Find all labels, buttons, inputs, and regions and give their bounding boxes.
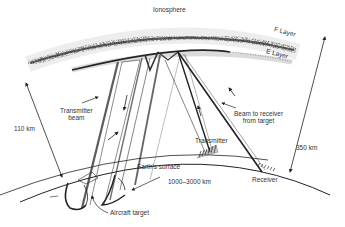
label-350km: 350 km: [296, 144, 317, 151]
label-receiver: Receiver: [252, 176, 278, 183]
label-aircraft-target: Aircraft target: [110, 209, 149, 216]
label-transmitter-beam: Transmitter beam: [60, 107, 93, 122]
beam-direction-arrows: [108, 88, 235, 140]
label-transmitter-beam-line1: Transmitter: [60, 107, 93, 114]
label-earth-surface: Earth's surface: [137, 163, 180, 170]
label-transmitter-beam-line2: beam: [60, 114, 93, 121]
label-beam-to-receiver-line2: from target: [234, 117, 283, 124]
label-beam-to-receiver: Beam to receiver from target: [234, 110, 283, 125]
label-beam-to-receiver-line1: Beam to receiver: [234, 110, 283, 117]
label-ground-range: 1000–3000 km: [168, 178, 211, 185]
e-layer-band: [72, 50, 292, 70]
transmitter-beam: [82, 52, 178, 208]
title-ionosphere: Ionosphere: [153, 6, 186, 13]
aircraft-target-footprint: [50, 172, 125, 209]
transmitter-antenna-icon: [197, 145, 218, 158]
f-layer-band: [28, 36, 298, 64]
label-transmitter: Transmitter: [195, 137, 228, 144]
label-110km: 110 km: [14, 125, 35, 132]
